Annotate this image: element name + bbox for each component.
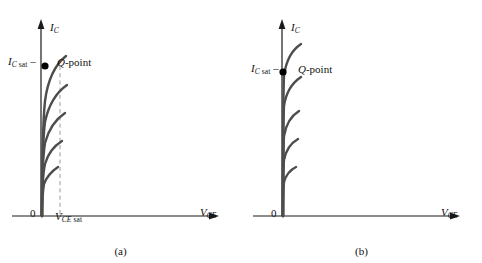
y-axis-arrow-b [279, 19, 286, 29]
panel-b: IC IC sat – Q-point 0 VCE (b) [241, 0, 482, 263]
plot-a [0, 0, 241, 240]
curve-b-2 [283, 77, 301, 216]
y-axis-arrow-a [38, 19, 45, 29]
y-tick-dash-b: – [273, 62, 279, 74]
curve-a-1 [42, 56, 66, 216]
q-point-label-a: Q-point [57, 57, 91, 68]
curve-family-a [42, 56, 67, 216]
curve-b-5 [283, 167, 296, 216]
q-point-label-b: Q-point [298, 64, 332, 75]
origin-label-a: 0 [30, 208, 36, 219]
x-label-vcesat-a: VCE sat [55, 211, 82, 224]
caption-a: (a) [0, 245, 241, 257]
y-axis-label-b: IC [291, 22, 300, 35]
origin-label-b: 0 [271, 208, 277, 219]
plot-b [241, 0, 482, 240]
y-axis-label-a: IC [50, 22, 59, 35]
curve-b-3 [283, 111, 299, 216]
panel-a: IC IC sat – Q-point 0 VCE sat VCE (a) [0, 0, 241, 263]
figure-transistor-characteristics: IC IC sat – Q-point 0 VCE sat VCE (a) [0, 0, 482, 263]
q-point-dot-a [41, 62, 48, 69]
x-axis-label-a: VCE [200, 207, 217, 220]
caption-b: (b) [241, 245, 482, 257]
q-point-dot-b [279, 68, 286, 75]
y-tick-label-icsat-b: IC sat – [251, 63, 279, 76]
y-tick-label-icsat-a: IC sat – [8, 56, 36, 69]
x-axis-label-b: VCE [441, 207, 458, 220]
y-tick-dash-a: – [30, 55, 36, 67]
